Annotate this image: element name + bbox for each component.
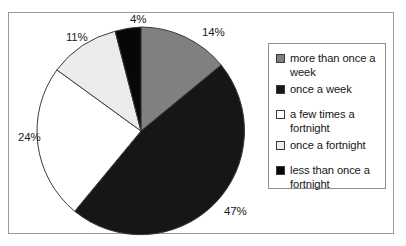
legend-item-once-a-fortnight[interactable]: once a fortnight — [276, 138, 379, 152]
pie-label-more-than-once-a-week: 14% — [202, 26, 224, 38]
legend-item-label: a few times a fortnight — [290, 107, 379, 135]
pie-label-less-than-once-a-fortnight: 4% — [130, 13, 146, 25]
legend-swatch-icon — [276, 85, 285, 94]
legend-swatch-icon — [276, 141, 285, 150]
plot-area: 14% 47% 24% 11% 4% more than once a week… — [0, 0, 406, 246]
chart-legend: more than once a week once a week a few … — [268, 43, 386, 189]
pie-chart — [28, 18, 254, 244]
pie-label-once-a-week: 47% — [224, 205, 246, 217]
legend-item-once-a-week[interactable]: once a week — [276, 82, 379, 96]
legend-swatch-icon — [276, 110, 285, 119]
pie-chart-figure: 14% 47% 24% 11% 4% more than once a week… — [0, 0, 406, 246]
legend-item-less-than-once-a-fortnight[interactable]: less than once a fortnight — [276, 163, 379, 191]
legend-item-a-few-times-a-fortnight[interactable]: a few times a fortnight — [276, 107, 379, 135]
legend-item-more-than-once-a-week[interactable]: more than once a week — [276, 51, 379, 79]
legend-swatch-icon — [276, 54, 285, 63]
legend-item-label: once a week — [290, 82, 352, 96]
legend-swatch-icon — [276, 166, 285, 175]
legend-item-label: once a fortnight — [290, 138, 366, 152]
legend-item-label: more than once a week — [290, 51, 379, 79]
pie-label-once-a-fortnight: 11% — [66, 31, 88, 43]
pie-label-a-few-times-a-fortnight: 24% — [18, 131, 40, 143]
legend-item-label: less than once a fortnight — [290, 163, 379, 191]
